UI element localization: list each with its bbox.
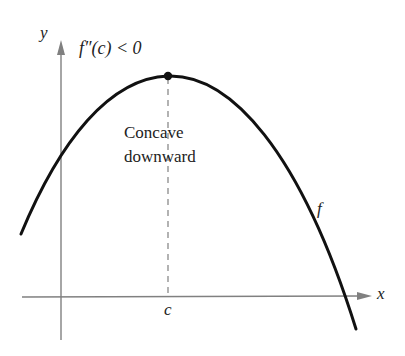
- concavity-diagram: y x c f f″(c) < 0 Concave downward: [0, 0, 405, 356]
- x-axis: [22, 292, 372, 300]
- c-label: c: [164, 300, 172, 320]
- concavity-label-line1: Concave: [124, 123, 183, 143]
- y-axis: [57, 40, 65, 340]
- peak-point-icon: [164, 72, 172, 80]
- y-axis-label: y: [40, 23, 48, 43]
- x-axis-arrow-icon: [357, 292, 372, 300]
- diagram-graphics: [0, 0, 405, 356]
- curve-f: [21, 76, 356, 329]
- x-axis-label: x: [377, 284, 385, 304]
- y-axis-arrow-icon: [57, 40, 65, 55]
- curve-label: f: [317, 199, 322, 219]
- second-derivative-condition: f″(c) < 0: [79, 38, 142, 59]
- concavity-label-line2: downward: [124, 147, 196, 167]
